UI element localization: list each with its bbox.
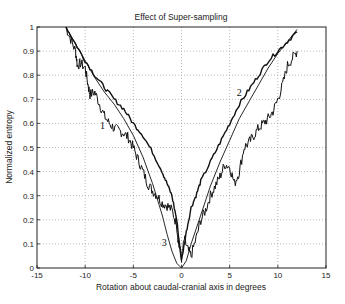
curve-label: 1	[100, 120, 105, 131]
y-tick-label: 0	[30, 264, 35, 273]
y-tick-label: 0.3	[23, 192, 35, 201]
x-tick-label: 0	[179, 271, 184, 280]
series-2-line	[66, 27, 297, 260]
x-axis-label: Rotation about caudal-cranial axis in de…	[96, 282, 266, 292]
y-tick-label: 0.6	[23, 119, 35, 128]
x-tick-label: -5	[130, 271, 138, 280]
entropy-chart: Effect of Super-sampling -15-10-5051015 …	[0, 0, 345, 304]
x-tick-label: 10	[273, 271, 282, 280]
y-tick-label: 0.5	[23, 144, 35, 153]
curve-label: 2	[237, 87, 242, 98]
y-tick-label: 0.2	[23, 216, 35, 225]
y-tick-label: 1	[30, 23, 35, 32]
chart-title: Effect of Super-sampling	[135, 12, 228, 22]
y-axis-label: Normalized entropy	[4, 109, 14, 183]
x-tick-label: 15	[322, 271, 331, 280]
y-tick-label: 0.4	[23, 168, 35, 177]
x-tick-label: 5	[227, 271, 232, 280]
curve-label: 3	[162, 237, 167, 248]
x-axis-ticks: -15-10-5051015	[31, 265, 331, 280]
y-tick-label: 0.1	[23, 240, 35, 249]
y-tick-label: 0.9	[23, 47, 35, 56]
x-tick-label: -10	[79, 271, 91, 280]
y-tick-label: 0.7	[23, 95, 35, 104]
y-tick-label: 0.8	[23, 71, 35, 80]
curve-annotations: 123	[100, 87, 242, 249]
